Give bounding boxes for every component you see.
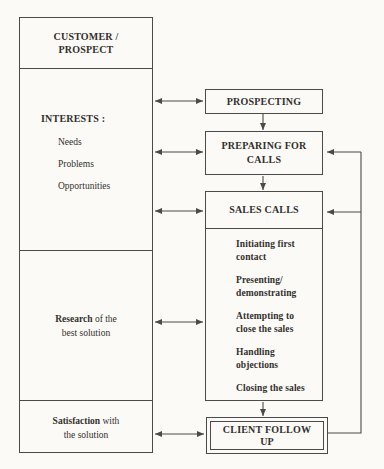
sales-calls-header: SALES CALLS [206,192,322,229]
sales-calls-title: SALES CALLS [229,203,299,217]
step-initiating-first-contact: Initiating first contact [236,238,318,264]
interests-list: Needs Problems Opportunities [20,136,152,193]
interests-section: INTERESTS : Needs Problems Opportunities [20,69,152,251]
step-attempting-to-close: Attempting to close the sales [236,310,318,336]
sales-calls-box: SALES CALLS Initiating first contact Pre… [205,191,323,401]
satisfaction-lead: Satisfaction [53,416,101,426]
sales-process-diagram: CUSTOMER / PROSPECT INTERESTS : Needs Pr… [0,0,384,469]
sales-calls-steps: Initiating first contact Presenting/ dem… [206,229,322,395]
satisfaction-section: Satisfaction with the solution [20,401,152,454]
satisfaction-label: Satisfaction with the solution [53,414,120,442]
interests-title: INTERESTS : [20,113,152,124]
interests-item-problems: Problems [20,158,152,171]
research-line2: best solution [55,326,117,340]
research-lead: Research [55,314,92,324]
research-rest: of the [93,314,117,324]
feedback-line-client-follow-up [328,152,361,433]
research-section: Research of the best solution [20,251,152,401]
customer-column: CUSTOMER / PROSPECT INTERESTS : Needs Pr… [19,17,153,453]
client-follow-up-box: CLIENT FOLLOW UP [206,417,328,454]
step-closing-the-sales: Closing the sales [236,382,318,395]
client-follow-up-inner-frame: CLIENT FOLLOW UP [210,421,324,450]
satisfaction-rest: with [100,416,119,426]
preparing-for-calls-label: PREPARING FOR CALLS [222,139,307,167]
interests-item-needs: Needs [20,136,152,149]
interests-item-opportunities: Opportunities [20,180,152,193]
preparing-for-calls-box: PREPARING FOR CALLS [205,131,323,175]
research-label: Research of the best solution [55,312,117,340]
step-handling-objections: Handling objections [236,346,318,372]
step-presenting-demonstrating: Presenting/ demonstrating [236,274,318,300]
customer-prospect-box: CUSTOMER / PROSPECT [20,18,152,69]
customer-prospect-label: CUSTOMER / PROSPECT [54,30,119,56]
satisfaction-line2: the solution [53,428,120,442]
prospecting-box: PROSPECTING [205,89,323,114]
client-follow-up-label: CLIENT FOLLOW UP [223,424,311,448]
prospecting-label: PROSPECTING [227,95,301,109]
